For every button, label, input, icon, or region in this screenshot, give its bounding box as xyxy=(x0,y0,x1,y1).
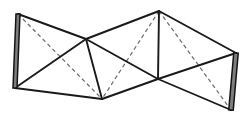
edge-C-F xyxy=(86,39,158,79)
edge-D-F xyxy=(102,79,158,99)
right-fold-band xyxy=(229,53,238,110)
edge-F-H xyxy=(158,79,231,110)
solid-edge-layer xyxy=(15,11,236,110)
edge-E-G xyxy=(159,11,236,53)
diagonal-E-D xyxy=(102,11,159,99)
wireframe-figure-container xyxy=(0,0,247,123)
edge-C-D xyxy=(86,39,102,99)
edge-B-D xyxy=(15,88,102,99)
left-fold-band xyxy=(13,14,20,88)
wireframe-diagram xyxy=(0,0,247,123)
edge-C-E xyxy=(86,11,159,39)
edge-E-F xyxy=(158,11,159,79)
edge-F-G xyxy=(158,53,236,79)
edge-A-C xyxy=(18,14,86,39)
